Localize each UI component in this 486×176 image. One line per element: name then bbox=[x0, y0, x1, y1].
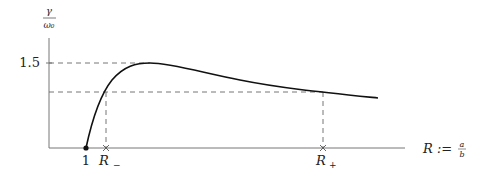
plot: γ ω₀ 1.5 1 R − R + R := a b bbox=[0, 0, 486, 176]
x-tick-r-plus: R bbox=[315, 153, 326, 168]
y-label-denominator: ω₀ bbox=[44, 20, 55, 30]
y-tick-label: 1.5 bbox=[19, 55, 40, 70]
x-label-denominator: b bbox=[459, 150, 464, 159]
x-tick-r-plus-sub: + bbox=[329, 160, 337, 170]
x-label-numerator: a bbox=[460, 140, 465, 149]
x-tick-r-minus: R bbox=[98, 153, 109, 168]
x-label: R := bbox=[422, 141, 452, 156]
x-tick-r-minus-sub: − bbox=[113, 160, 121, 170]
start-point bbox=[83, 145, 88, 150]
x-tick-one: 1 bbox=[82, 153, 90, 168]
curve bbox=[86, 63, 378, 148]
y-label-numerator: γ bbox=[46, 5, 52, 16]
